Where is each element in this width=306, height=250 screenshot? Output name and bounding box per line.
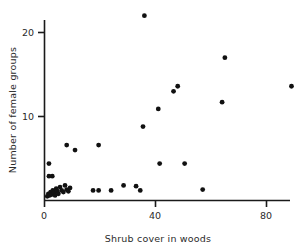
y-tick-label-20: 20 <box>22 27 34 38</box>
data-point <box>141 124 146 129</box>
data-point <box>121 183 126 188</box>
data-point <box>109 188 114 193</box>
data-point <box>200 187 205 192</box>
data-point <box>50 174 55 179</box>
data-point <box>142 13 147 18</box>
data-point <box>47 161 52 166</box>
data-point <box>156 107 161 112</box>
y-tick-label-10: 10 <box>22 111 34 122</box>
data-point <box>289 84 294 89</box>
data-point <box>171 89 176 94</box>
data-points-layer <box>45 13 294 198</box>
data-point <box>220 100 225 105</box>
data-point <box>63 183 68 188</box>
data-point <box>96 143 101 148</box>
data-point <box>134 184 139 189</box>
data-point <box>96 188 101 193</box>
data-point <box>64 143 69 148</box>
x-axis-title: Shrub cover in woods <box>105 233 212 244</box>
data-point <box>175 84 180 89</box>
data-point <box>68 186 73 191</box>
data-point <box>138 188 143 193</box>
data-point <box>222 55 227 60</box>
x-tick-label-80: 80 <box>260 210 272 221</box>
data-point <box>91 188 96 193</box>
data-point <box>157 161 162 166</box>
data-point <box>73 148 78 153</box>
chart-canvas: Number of female groups Shrub cover in w… <box>0 0 306 250</box>
x-tick-label-40: 40 <box>149 210 161 221</box>
x-tick-label-0: 0 <box>41 210 47 221</box>
y-axis-title: Number of female groups <box>7 47 18 173</box>
scatter-plot-figure: Number of female groups Shrub cover in w… <box>0 0 306 250</box>
data-point <box>182 161 187 166</box>
